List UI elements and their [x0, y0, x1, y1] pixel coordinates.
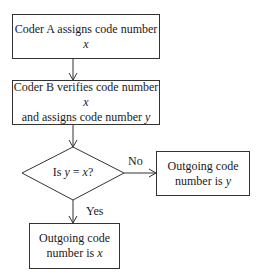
decision-post: ? — [88, 165, 93, 179]
node-text-line1: Outgoing code — [168, 159, 239, 173]
decision-text: Is y = x? — [33, 165, 113, 180]
edge-label-no: No — [128, 154, 143, 169]
node-var: x — [97, 246, 102, 260]
node-text-line1: Outgoing code — [39, 231, 110, 245]
node-text-line2: number is — [175, 174, 226, 188]
node-var: x — [83, 37, 88, 51]
node-var: x — [83, 95, 88, 109]
node-var: y — [145, 110, 150, 124]
out-x-box: Outgoing code number is x — [29, 223, 120, 269]
out-y-box: Outgoing code number is y — [156, 151, 250, 196]
decision-mid: = — [70, 165, 83, 179]
decision-pre: Is — [53, 165, 65, 179]
node-text: Coder A assigns code number — [15, 22, 158, 36]
coder-b-box: Coder B verifies code number x and assig… — [12, 80, 160, 125]
node-text-line1: Coder B verifies code number — [14, 80, 159, 94]
node-text-line2: number is — [47, 246, 98, 260]
edge-label-yes: Yes — [86, 204, 103, 219]
coder-a-box: Coder A assigns code number x — [12, 14, 160, 59]
node-var: y — [226, 174, 231, 188]
node-text-line2: and assigns code number — [22, 110, 145, 124]
